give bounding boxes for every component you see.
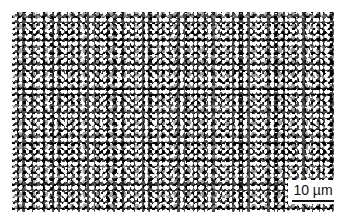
scale-bar-line: [292, 200, 334, 202]
scale-bar-label: 10 µm: [288, 182, 338, 198]
scale-bar-box: 10 µm: [288, 180, 338, 204]
micrograph-image: [12, 12, 334, 212]
